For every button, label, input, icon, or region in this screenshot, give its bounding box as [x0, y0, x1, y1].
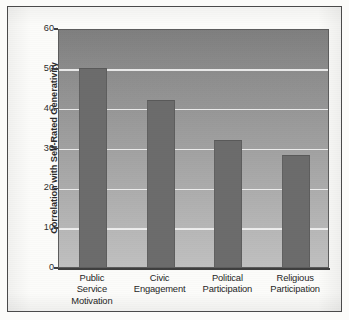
x-axis-category-label: PublicServiceMotivation	[58, 272, 126, 306]
x-axis-category-label-line: Political	[194, 272, 262, 283]
y-axis-tick-label: 10	[28, 223, 54, 232]
y-axis-tick-mark	[54, 108, 58, 109]
x-axis-category-label-line: Participation	[194, 283, 262, 294]
y-axis-tick-mark	[54, 188, 58, 189]
bar	[214, 140, 242, 267]
y-axis-tick-mark	[54, 68, 58, 69]
x-axis-category-label-line: Motivation	[58, 295, 126, 306]
bar	[282, 155, 310, 267]
x-axis-category-labels: PublicServiceMotivationCivicEngagementPo…	[58, 272, 330, 314]
y-axis-tick-mark	[54, 28, 58, 29]
bar	[79, 68, 107, 267]
y-axis-tick-label: 40	[28, 104, 54, 113]
x-axis-category-label-line: Religious	[261, 272, 329, 283]
x-axis-category-label-line: Service	[58, 283, 126, 294]
figure-root: Correlation with Self-Rated Generativity…	[0, 0, 349, 320]
x-axis-line	[58, 268, 330, 270]
y-axis-tick-label: 50	[28, 64, 54, 73]
x-axis-category-label-line: Participation	[261, 283, 329, 294]
x-axis-category-label: ReligiousParticipation	[261, 272, 329, 295]
x-axis-category-label: PoliticalParticipation	[194, 272, 262, 295]
x-axis-category-label-line: Engagement	[126, 283, 194, 294]
plot-area	[58, 29, 329, 268]
y-axis-tick-label: 60	[28, 24, 54, 33]
y-axis-tick-mark	[54, 267, 58, 268]
y-axis-tick-labels: 6050403020100	[22, 7, 54, 290]
x-axis-category-label-line: Public	[58, 272, 126, 283]
bar	[147, 100, 175, 267]
figure-frame: Correlation with Self-Rated Generativity…	[7, 6, 342, 312]
x-axis-category-label-line: Civic	[126, 272, 194, 283]
y-axis-tick-label: 20	[28, 183, 54, 192]
y-axis-tick-mark	[54, 227, 58, 228]
y-axis-tick-label: 0	[28, 263, 54, 272]
y-axis-tick-mark	[54, 148, 58, 149]
y-axis-tick-label: 30	[28, 144, 54, 153]
x-axis-category-label: CivicEngagement	[126, 272, 194, 295]
